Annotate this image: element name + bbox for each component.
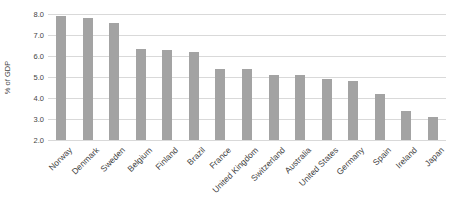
y-axis-tick-label: 7.0 [24,31,44,40]
y-axis-title: % of GDP [2,46,13,110]
y-axis-tick-label: 2.0 [24,136,44,145]
y-axis-tick-label: 6.0 [24,52,44,61]
bar-finland [162,50,172,140]
y-axis-tick-label: 4.0 [24,94,44,103]
gridline [48,56,446,57]
bar-japan [428,117,438,140]
bar-norway [56,16,66,140]
bar-denmark [83,18,93,140]
bar-germany [348,81,358,140]
bar-belgium [136,49,146,140]
bar-spain [375,94,385,140]
bar-chart: 8.07.06.05.04.03.02.0 NorwayDenmarkSwede… [0,0,453,211]
bar-sweden [109,23,119,140]
bar-france [215,69,225,140]
bar-united-states [322,79,332,140]
y-axis-tick-label: 8.0 [24,10,44,19]
bar-australia [295,75,305,140]
bar-united-kingdom [242,69,252,140]
y-axis-tick-label: 3.0 [24,115,44,124]
bar-switzerland [269,75,279,140]
gridline [48,35,446,36]
plot-area: 8.07.06.05.04.03.02.0 NorwayDenmarkSwede… [0,0,453,211]
bar-ireland [401,111,411,140]
gridline [48,14,446,15]
bar-brazil [189,52,199,140]
y-axis-tick-label: 5.0 [24,73,44,82]
gridline [48,140,446,141]
